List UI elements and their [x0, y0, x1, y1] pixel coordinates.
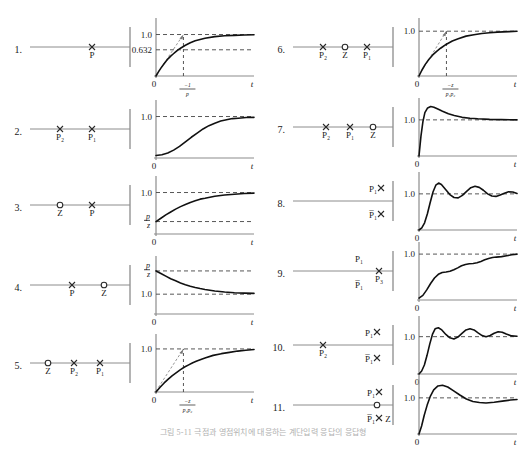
y-axis-label: 1.0 — [404, 249, 416, 259]
x-tick-denominator: p₁p₂ — [182, 407, 193, 413]
step-response-plot: 1.00.6320t−1p — [130, 14, 262, 94]
figure-caption: 그림 5-11 극점과 영점위치에 대응하는 계단입력 응답의 응답형 — [0, 426, 526, 437]
origin-label: 0 — [152, 317, 157, 327]
y-axis-label: 1.0 — [141, 289, 153, 299]
step-response-plot: 1.00t — [393, 372, 525, 449]
pz-label: P₂ — [319, 50, 327, 60]
zero-circle-icon — [57, 202, 63, 208]
pz-label: Z — [370, 130, 376, 140]
pz-label: Z — [342, 50, 348, 60]
pz-label: P₂ — [56, 132, 64, 142]
y-axis-label-denominator: z — [146, 221, 151, 230]
row-index-label: 4. — [2, 282, 22, 293]
pole-zero-diagram: P₁P̅₁Z — [287, 377, 407, 433]
response-curve — [156, 117, 254, 155]
row-index-label: 9. — [265, 268, 285, 279]
y-axis-label: 1.0 — [141, 344, 153, 354]
x-tick-numerator: −z — [447, 82, 454, 88]
row-index-label: 11. — [265, 402, 285, 413]
pz-label: P₃ — [375, 274, 383, 284]
tangent-arrow-icon — [179, 349, 183, 354]
response-curve — [419, 328, 517, 374]
step-response-plot: 1.00t — [393, 168, 525, 248]
response-curve — [419, 254, 517, 298]
pz-label-upper: P₁ — [369, 184, 377, 194]
pz-label-upper: P₁ — [367, 388, 375, 398]
x-tick-numerator: −1 — [184, 82, 191, 88]
zero-circle-icon — [374, 402, 380, 408]
pole-zero-diagram: ZP₂P₁ — [24, 335, 144, 391]
x-axis-label: t — [251, 161, 254, 171]
origin-label: 0 — [415, 437, 420, 447]
pole-x-icon — [378, 211, 384, 217]
pz-label: P₁ — [346, 130, 354, 140]
zero-circle-icon — [101, 282, 107, 288]
pz-label: P₁ — [96, 366, 104, 376]
y-axis-label: 1.0 — [141, 112, 153, 122]
y-axis-label: 0.632 — [132, 45, 152, 55]
response-curve — [419, 31, 517, 76]
row-index-label: 2. — [2, 126, 22, 137]
origin-label: 0 — [152, 79, 157, 89]
step-response-plot: 1.00t−zp₁p₂ — [130, 330, 262, 410]
x-axis-label: t — [514, 79, 517, 89]
pz-label-lower: P̅₁ — [367, 414, 376, 424]
pz-label: P₂ — [322, 130, 330, 140]
pz-label: Z — [45, 366, 51, 376]
pole-x-icon — [374, 355, 380, 361]
x-axis-label: t — [251, 237, 254, 247]
step-response-plot: 1.00t — [393, 238, 525, 318]
origin-label: 0 — [415, 79, 420, 89]
y-axis-label: 1.0 — [404, 115, 416, 125]
row-index-label: 10. — [265, 342, 285, 353]
pole-zero-diagram: PZ — [24, 257, 144, 313]
pz-label-lower: P̅₁ — [355, 280, 364, 290]
response-curve — [419, 107, 517, 157]
origin-label: 0 — [152, 161, 157, 171]
column-right: 6.P₂ZP₁1.00t−zp₁p₂7.P₂P₁Z1.00t8.P₁P̅₁1.0… — [263, 0, 526, 415]
x-axis-label: t — [251, 317, 254, 327]
response-curve — [419, 183, 517, 230]
pole-x-icon — [376, 389, 382, 395]
pole-x-icon — [374, 329, 380, 335]
row-index-label: 6. — [265, 44, 285, 55]
pole-zero-diagram: P₂P₁P̅₁ — [287, 317, 407, 373]
pz-label-lower: P̅₁ — [369, 210, 378, 220]
y-axis-label-numerator: p — [145, 261, 150, 270]
row-index-label: 5. — [2, 360, 22, 371]
zero-circle-icon — [342, 44, 348, 50]
pz-label: P — [89, 50, 94, 60]
pz-label: Z — [101, 288, 107, 298]
row-index-label: 8. — [265, 198, 285, 209]
tangent-arrow-icon — [442, 31, 446, 36]
pz-label: P₂ — [70, 366, 78, 376]
x-axis-label: t — [251, 79, 254, 89]
pz-label: P₁ — [88, 132, 96, 142]
y-axis-label-denominator: z — [146, 270, 151, 279]
step-response-plot: 1.00t — [130, 96, 262, 176]
pz-label: Z — [57, 208, 63, 218]
pz-label: P — [89, 208, 94, 218]
y-axis-label: 1.0 — [141, 188, 153, 198]
response-curve — [156, 271, 254, 293]
zero-circle-icon — [45, 360, 51, 366]
y-axis-label: 1.0 — [404, 189, 416, 199]
pole-zero-diagram: P — [24, 19, 144, 75]
step-response-plot: pz1.00t — [130, 252, 262, 332]
response-curve — [156, 193, 254, 221]
pole-x-icon — [376, 415, 382, 421]
pole-zero-diagram: P₃P₁P̅₁ — [287, 243, 407, 299]
y-axis-label-numerator: p — [145, 212, 150, 221]
pz-label-lower: P̅₁ — [365, 354, 374, 364]
step-response-plot: 1.00t−zp₁p₂ — [393, 14, 525, 94]
step-response-plot: 1.0pz0t — [130, 172, 262, 252]
pole-zero-diagram: P₂P₁ — [24, 101, 144, 157]
pz-label: P — [69, 288, 74, 298]
response-curve — [156, 350, 254, 392]
pole-zero-diagram: P₁P̅₁ — [287, 173, 407, 229]
x-tick-numerator: −z — [184, 398, 191, 404]
zero-circle-icon — [370, 124, 376, 130]
pz-label: P₂ — [319, 348, 327, 358]
pz-label-zero: Z — [385, 414, 391, 424]
